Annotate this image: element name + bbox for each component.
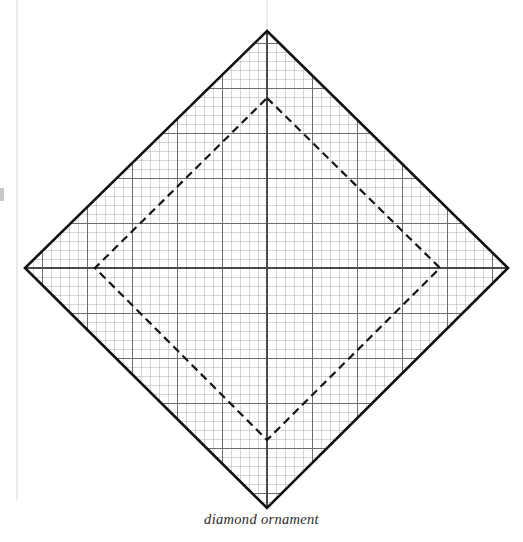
grid-center-axes bbox=[25, 31, 508, 508]
page-canvas: diamond ornament bbox=[0, 0, 523, 542]
page-edge-smudge bbox=[0, 188, 4, 201]
diamond-ornament-figure bbox=[0, 0, 523, 542]
graph-paper-grid bbox=[24, 25, 510, 511]
figure-caption: diamond ornament bbox=[0, 511, 523, 528]
